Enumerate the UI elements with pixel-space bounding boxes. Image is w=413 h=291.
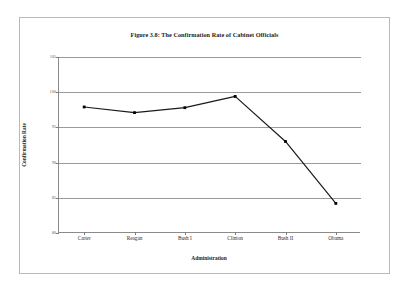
- x-tick-label-carter: Carter: [78, 236, 91, 241]
- x-tick-label-bush-ii: Bush II: [278, 236, 293, 241]
- x-tick-label-obama: Obama: [328, 236, 343, 241]
- figure-page: Figure 3.8: The Confirmation Rate of Cab…: [0, 0, 413, 291]
- data-point-carter: [83, 106, 86, 109]
- y-tick-label: 95: [52, 125, 56, 129]
- y-tick-mark: [56, 233, 59, 234]
- y-tick-label: 80: [52, 231, 56, 235]
- x-tick-label-clinton: Clinton: [227, 236, 243, 241]
- x-tick-label-reagan: Reagan: [127, 236, 143, 241]
- data-point-bush-ii: [284, 140, 287, 143]
- chart-title: Figure 3.8: The Confirmation Rate of Cab…: [19, 31, 390, 38]
- data-point-bush-i: [183, 106, 186, 109]
- series-line-confirmation-rate: [59, 57, 361, 233]
- plot-area: 80859095100105 CarterReaganBush IClinton…: [58, 57, 360, 233]
- series-path: [84, 96, 336, 203]
- data-point-obama: [334, 202, 337, 205]
- y-tick-label: 105: [50, 55, 56, 59]
- x-tick-label-bush-i: Bush I: [178, 236, 192, 241]
- y-axis-title: Confirmation Rate: [21, 123, 27, 167]
- data-point-clinton: [234, 95, 237, 98]
- data-point-reagan: [133, 111, 136, 114]
- y-tick-label: 90: [52, 161, 56, 165]
- x-axis-title: Administration: [58, 255, 360, 261]
- y-tick-label: 100: [50, 90, 56, 94]
- y-tick-label: 85: [52, 196, 56, 200]
